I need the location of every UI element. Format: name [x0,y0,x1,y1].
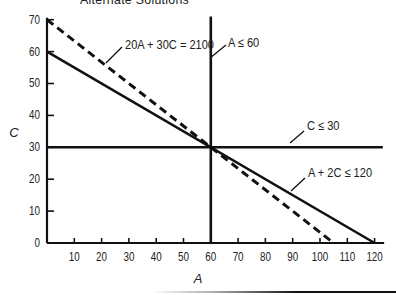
y-axis-label: C [9,125,19,140]
x-tick-label: 60 [205,250,216,263]
annotation-label: A ≤ 60 [228,35,259,50]
x-tick-label: 90 [287,250,298,263]
x-tick-label: 110 [339,250,355,263]
x-tick-label: 120 [366,250,382,263]
y-tick-label: 0 [35,236,40,249]
x-tick-label: 80 [260,250,271,263]
y-tick-label: 30 [29,140,40,153]
y-tick-label: 20 [29,172,40,185]
x-tick-label: 40 [151,250,162,263]
leader-line [290,131,304,143]
y-tick-label: 50 [29,77,40,90]
y-tick-label: 70 [29,13,40,26]
x-tick-label: 100 [312,250,328,263]
annotation-label: A + 2C ≤ 120 [308,165,372,180]
x-tick-label: 10 [69,250,80,263]
chart: 1020304050607080901001101200102030405060… [0,0,396,295]
x-tick-label: 70 [233,250,244,263]
x-tick-label: 30 [123,250,134,263]
series-line-0 [47,20,334,243]
annotations: 20A + 30C = 2100A ≤ 60C ≤ 30A + 2C ≤ 120 [106,35,372,191]
x-axis-label: A [193,271,203,286]
x-tick-label: 50 [178,250,189,263]
y-tick-label: 60 [29,45,40,58]
annotation-label: 20A + 30C = 2100 [125,37,214,52]
y-tick-label: 40 [29,108,40,121]
y-tick-label: 10 [29,204,40,217]
leader-line [291,178,305,191]
x-tick-label: 20 [96,250,107,263]
bottom-rule [150,291,396,293]
annotation-label: C ≤ 30 [307,118,340,133]
axes: 1020304050607080901001101200102030405060… [9,13,384,286]
leader-line [106,47,122,63]
